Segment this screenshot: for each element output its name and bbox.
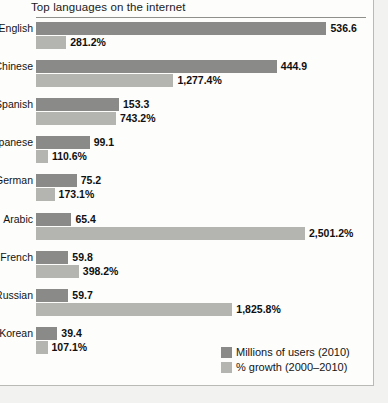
bar-growth — [36, 74, 173, 87]
bar-growth — [36, 188, 55, 201]
category-label: French — [0, 251, 33, 263]
bar-growth — [36, 227, 305, 240]
bar-value-growth: 110.6% — [52, 150, 87, 163]
bar-value-growth: 1,825.8% — [236, 303, 280, 316]
category-label: Arabic — [0, 213, 33, 225]
legend-item: Millions of users (2010) — [221, 345, 371, 360]
legend-swatch — [221, 347, 232, 358]
category-label: German — [0, 174, 33, 186]
bar-users — [36, 213, 71, 226]
chart-legend: Millions of users (2010)% growth (2000–2… — [221, 345, 371, 375]
legend-item: % growth (2000–2010) — [221, 360, 371, 375]
plot-area: English536.6281.2%Chinese444.91,277.4%Sp… — [0, 0, 374, 386]
bar-value-users: 65.4 — [75, 213, 95, 226]
bar-value-growth: 107.1% — [52, 341, 88, 354]
bar-value-users: 39.4 — [61, 327, 81, 340]
bar-growth — [36, 341, 48, 354]
category-label: Japanese — [0, 136, 33, 148]
bar-group: Russian59.71,825.8% — [0, 289, 374, 317]
bar-users — [36, 174, 77, 187]
category-label: Korean — [0, 327, 33, 339]
bar-group: Arabic65.42,501.2% — [0, 213, 374, 241]
bar-value-growth: 281.2% — [70, 36, 106, 49]
bar-users — [36, 251, 68, 264]
bar-users — [36, 327, 57, 340]
bar-value-growth: 743.2% — [120, 112, 156, 125]
bar-growth — [36, 36, 66, 49]
bar-group: French59.8398.2% — [0, 251, 374, 279]
bar-value-users: 536.6 — [330, 22, 356, 35]
bar-group: German75.2173.1% — [0, 174, 374, 202]
bar-value-growth: 173.1% — [59, 188, 95, 201]
bar-growth — [36, 265, 79, 278]
bar-group: Japanese99.1110.6% — [0, 136, 374, 164]
bar-value-growth: 398.2% — [83, 265, 119, 278]
bar-value-growth: 2,501.2% — [309, 227, 353, 240]
bar-users — [36, 60, 277, 73]
bar-users — [36, 289, 68, 302]
bar-group: Chinese444.91,277.4% — [0, 60, 374, 88]
bar-growth — [36, 150, 48, 163]
legend-label: % growth (2000–2010) — [236, 360, 347, 375]
bar-growth — [36, 303, 232, 316]
bar-users — [36, 98, 119, 111]
bar-group: Spanish153.3743.2% — [0, 98, 374, 126]
category-label: Chinese — [0, 60, 33, 72]
bar-growth — [36, 112, 116, 125]
bar-value-users: 59.8 — [72, 251, 92, 264]
category-label: English — [0, 22, 33, 34]
legend-swatch — [221, 362, 232, 373]
bar-value-users: 153.3 — [123, 98, 149, 111]
category-label: Spanish — [0, 98, 33, 110]
bar-users — [36, 136, 90, 149]
chart-card: Top languages on the internet English536… — [0, 0, 374, 386]
bar-value-users: 99.1 — [94, 136, 114, 149]
legend-label: Millions of users (2010) — [236, 345, 350, 360]
bar-value-growth: 1,277.4% — [177, 74, 221, 87]
bar-value-users: 59.7 — [72, 289, 92, 302]
bar-group: English536.6281.2% — [0, 22, 374, 50]
bar-value-users: 444.9 — [281, 60, 307, 73]
bar-users — [36, 22, 326, 35]
chart-figure: Top languages on the internet English536… — [0, 0, 388, 403]
bar-value-users: 75.2 — [81, 174, 101, 187]
category-label: Russian — [0, 289, 33, 301]
